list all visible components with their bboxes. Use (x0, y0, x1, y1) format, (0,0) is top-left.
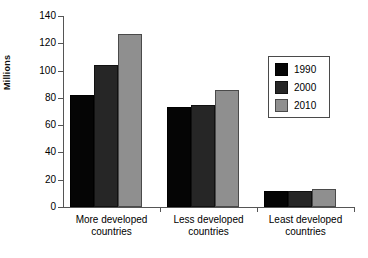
y-tick-label: 120 (22, 38, 56, 48)
bar-2010-1 (118, 34, 142, 207)
x-category-label: Least developedcountries (257, 214, 354, 238)
y-tick-label: 40 (22, 147, 56, 157)
chart-legend: 1990 2000 2010 (268, 56, 330, 118)
bar-chart: Millions 020406080100120140 More develop… (0, 0, 368, 258)
y-tick (58, 207, 63, 208)
legend-item-2000: 2000 (275, 80, 327, 96)
bar-2000-3 (288, 191, 312, 207)
bar-1990-2 (167, 107, 191, 207)
x-category-label-line: countries (160, 226, 257, 238)
y-tick-label: 100 (22, 66, 56, 76)
bar-group (70, 16, 142, 207)
y-tick-label: 20 (22, 175, 56, 185)
bar-1990-3 (264, 191, 288, 207)
legend-item-1990: 1990 (275, 62, 327, 78)
legend-swatch-icon-1990 (275, 63, 288, 76)
legend-label-2010: 2010 (294, 100, 316, 111)
y-tick-label: 60 (22, 120, 56, 130)
y-tick-label: 140 (22, 11, 56, 21)
x-category-label-line: countries (63, 226, 160, 238)
x-category-label-line: countries (257, 226, 354, 238)
x-category-label-line: More developed (63, 214, 160, 226)
bar-2000-1 (94, 65, 118, 207)
x-category-tick (257, 207, 258, 212)
bar-group (167, 16, 239, 207)
x-category-label: More developedcountries (63, 214, 160, 238)
bar-2010-2 (215, 90, 239, 207)
y-tick-label: 80 (22, 93, 56, 103)
legend-label-1990: 1990 (294, 64, 316, 75)
x-category-label-line: Least developed (257, 214, 354, 226)
bar-1990-1 (70, 95, 94, 207)
x-axis-line (63, 207, 354, 208)
legend-label-2000: 2000 (294, 82, 316, 93)
legend-item-2010: 2010 (275, 98, 327, 114)
bar-2000-2 (191, 105, 215, 207)
bar-2010-3 (312, 189, 336, 207)
x-category-label-line: Less developed (160, 214, 257, 226)
legend-swatch-icon-2010 (275, 99, 288, 112)
x-category-tick (354, 207, 355, 212)
y-tick-label: 0 (22, 202, 56, 212)
y-axis-title: Millions (2, 10, 16, 90)
x-category-tick (160, 207, 161, 212)
legend-swatch-icon-2000 (275, 81, 288, 94)
x-category-label: Less developedcountries (160, 214, 257, 238)
